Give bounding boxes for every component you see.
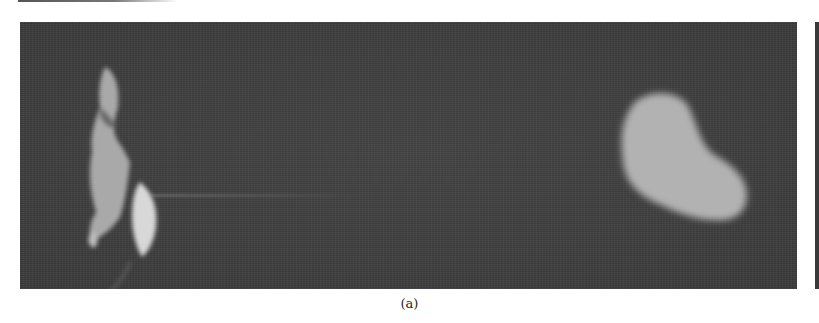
top-rule (18, 0, 178, 2)
horizontal-streak (150, 194, 370, 197)
left-bright-object (70, 52, 180, 289)
figure-panel-a (20, 22, 797, 289)
figure-caption: (a) (0, 296, 819, 311)
right-bright-blob (595, 82, 765, 252)
figure-panel-b-edge (815, 22, 819, 289)
